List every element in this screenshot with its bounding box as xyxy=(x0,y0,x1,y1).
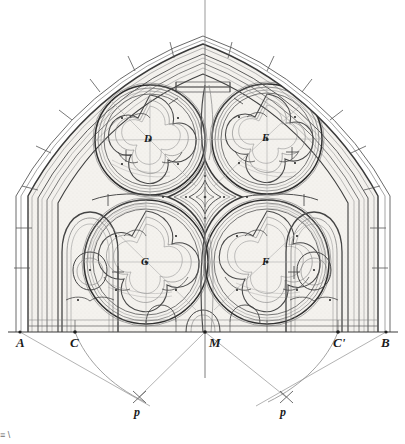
label-point-A: A xyxy=(16,336,25,349)
label-point-M: M xyxy=(209,336,221,349)
label-center-F: F xyxy=(262,256,269,267)
tracery-figure: A C M C' B D E G F p p ≡ \ xyxy=(0,0,405,444)
drawing-canvas xyxy=(0,0,405,444)
label-center-G: G xyxy=(141,256,149,267)
label-pivot-p-right: p xyxy=(280,406,286,418)
label-pivot-p-left: p xyxy=(134,406,140,418)
label-center-E: E xyxy=(262,132,269,143)
label-point-C-prime: C' xyxy=(333,336,345,349)
label-point-B: B xyxy=(381,336,390,349)
label-point-C: C xyxy=(70,336,79,349)
label-center-D: D xyxy=(144,133,152,144)
generating-arcs xyxy=(75,332,338,402)
caption-fragment: ≡ \ xyxy=(0,430,26,440)
